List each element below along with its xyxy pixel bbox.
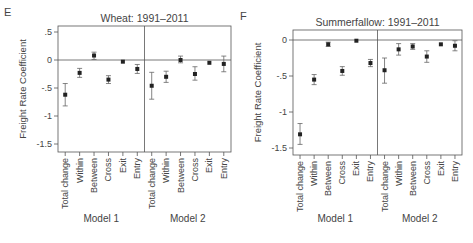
data-point — [135, 67, 139, 71]
x-tick-label: Total change — [295, 161, 305, 212]
data-point — [222, 62, 226, 66]
panel-summerfallow: FSummerfallow: 1991–2011Freight Rate Coe… — [240, 10, 462, 224]
x-tick-label: Within — [394, 161, 404, 186]
chart-title: Summerfallow: 1991–2011 — [315, 16, 439, 28]
data-point — [453, 44, 457, 48]
x-tick-label: Total change — [147, 158, 157, 209]
data-point — [354, 39, 358, 43]
x-tick-label: Within — [75, 158, 85, 183]
data-point — [368, 61, 372, 65]
panel-wheat: EWheat: 1991–2011Freight Rate Coefficien… — [4, 6, 231, 224]
x-tick-label: Total change — [60, 158, 70, 209]
x-tick-label: Between — [89, 158, 99, 193]
data-point — [121, 60, 125, 64]
y-axis-label: Freight Rate Coefficient — [252, 42, 263, 142]
y-tick-label: -1 — [279, 107, 287, 117]
x-tick-label: Cross — [190, 158, 200, 182]
x-tick-label: Cross — [103, 158, 113, 182]
x-tick-label: Total change — [380, 161, 390, 212]
data-point — [179, 58, 183, 62]
data-point — [312, 78, 316, 82]
panel-label: F — [240, 10, 247, 22]
x-tick-label: Exit — [436, 161, 446, 177]
panel-label: E — [4, 6, 11, 18]
x-tick-label: Cross — [422, 161, 432, 185]
x-tick-label: Between — [408, 161, 418, 196]
x-tick-label: Exit — [204, 158, 214, 174]
y-tick-label: -.5 — [276, 71, 287, 81]
data-point — [383, 68, 387, 72]
y-tick-label: 0 — [47, 55, 52, 65]
x-tick-label: Entry — [219, 158, 229, 180]
data-point — [92, 54, 96, 58]
data-point — [193, 72, 197, 76]
data-point — [298, 132, 302, 136]
x-tick-label: Within — [309, 161, 319, 186]
x-tick-label: Cross — [337, 161, 347, 185]
figure: EWheat: 1991–2011Freight Rate Coefficien… — [0, 0, 473, 243]
x-tick-label: Entry — [132, 158, 142, 180]
y-tick-label: 0 — [282, 35, 287, 45]
data-point — [340, 69, 344, 73]
x-tick-label: Entry — [450, 161, 460, 183]
data-point — [164, 75, 168, 79]
data-point — [106, 78, 110, 82]
data-point — [63, 93, 67, 97]
data-point — [439, 42, 443, 46]
group-label-model-1: Model 1 — [317, 213, 353, 224]
group-label-model-2: Model 2 — [170, 213, 206, 224]
x-tick-label: Exit — [351, 161, 361, 177]
chart-title: Wheat: 1991–2011 — [101, 12, 189, 24]
x-tick-label: Within — [161, 158, 171, 183]
y-tick-label: .5 — [44, 27, 52, 37]
y-tick-label: -.5 — [41, 83, 52, 93]
y-tick-label: -1.5 — [271, 143, 287, 153]
data-point — [207, 61, 211, 65]
y-tick-label: -1.5 — [36, 139, 52, 149]
data-point — [150, 84, 154, 88]
group-label-model-2: Model 2 — [402, 213, 438, 224]
data-point — [326, 42, 330, 46]
data-point — [78, 71, 82, 75]
data-point — [411, 44, 415, 48]
group-label-model-1: Model 1 — [83, 213, 119, 224]
x-tick-label: Exit — [118, 158, 128, 174]
x-tick-label: Entry — [365, 161, 375, 183]
data-point — [425, 55, 429, 59]
data-point — [397, 47, 401, 51]
y-tick-label: -1 — [44, 111, 52, 121]
x-tick-label: Between — [323, 161, 333, 196]
y-axis-label: Freight Rate Coefficient — [17, 39, 28, 139]
x-tick-label: Between — [176, 158, 186, 193]
